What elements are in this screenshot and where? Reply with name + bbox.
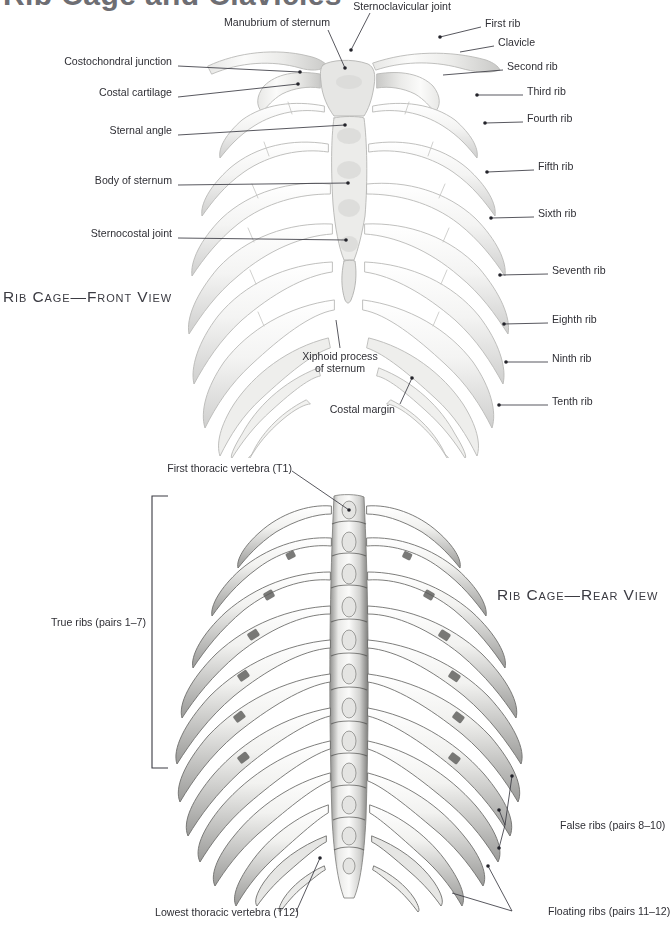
label-ninth-rib: Ninth rib bbox=[552, 352, 591, 365]
rib-cage-front-illustration bbox=[168, 8, 528, 453]
label-floating-ribs: Floating ribs (pairs 11–12) bbox=[548, 905, 670, 918]
label-true-ribs: True ribs (pairs 1–7) bbox=[0, 616, 146, 629]
label-clavicle: Clavicle bbox=[498, 36, 535, 49]
label-costal-cartilage: Costal cartilage bbox=[0, 86, 172, 99]
label-fourth-rib: Fourth rib bbox=[527, 112, 572, 125]
label-first-rib: First rib bbox=[485, 17, 520, 30]
label-body-of-sternum: Body of sternum bbox=[0, 174, 172, 187]
label-manubrium-of-sternum: Manubrium of sternum bbox=[190, 16, 330, 29]
label-lowest-thoracic-vertebra: Lowest thoracic vertebra (T12) bbox=[155, 906, 299, 919]
label-sixth-rib: Sixth rib bbox=[538, 207, 576, 220]
label-sternocostal-joint: Sternocostal joint bbox=[0, 227, 172, 240]
label-first-thoracic-vertebra: First thoracic vertebra (T1) bbox=[100, 462, 292, 475]
label-sternal-angle: Sternal angle bbox=[0, 124, 172, 137]
label-fifth-rib: Fifth rib bbox=[538, 160, 573, 173]
label-second-rib: Second rib bbox=[507, 60, 558, 73]
label-xiphoid-process-line2: of sternum bbox=[275, 362, 405, 375]
label-sternoclavicular-joint: Sternoclavicular joint bbox=[332, 0, 472, 13]
label-costochondral-junction: Costochondral junction bbox=[0, 55, 172, 68]
label-false-ribs: False ribs (pairs 8–10) bbox=[560, 819, 665, 832]
label-eighth-rib: Eighth rib bbox=[552, 313, 597, 326]
label-tenth-rib: Tenth rib bbox=[552, 395, 593, 408]
label-xiphoid-process-line1: Xiphoid process bbox=[275, 350, 405, 363]
rib-cage-rear-illustration bbox=[168, 488, 528, 908]
label-seventh-rib: Seventh rib bbox=[552, 264, 606, 277]
label-third-rib: Third rib bbox=[527, 85, 566, 98]
caption-front-view: Rib Cage—Front View bbox=[3, 288, 172, 306]
label-costal-margin: Costal margin bbox=[280, 403, 395, 416]
caption-rear-view: Rib Cage—Rear View bbox=[497, 586, 658, 604]
